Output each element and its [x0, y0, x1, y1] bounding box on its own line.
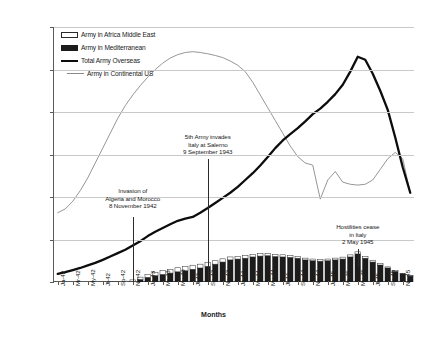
- x-axis-tick-label: Nv-43: [224, 270, 231, 286]
- annotation-algeria-morocco: Invasion ofAlgeria and Morocco8 November…: [81, 187, 185, 210]
- legend-item-4: Army in Continental US: [61, 67, 211, 80]
- x-axis-tick-label: Jl-44: [284, 273, 291, 286]
- x-axis-tick-label: Mr-42: [74, 270, 81, 286]
- bar-segment-africa-middle-east: [295, 256, 301, 258]
- bar-segment-africa-middle-east: [325, 259, 331, 261]
- y-tick-mark: [50, 197, 54, 198]
- x-axis-tick-label: Ja-43: [149, 271, 156, 286]
- annotation-hostilities-cease-line-3: 2 May 1945: [306, 238, 410, 246]
- legend-label: Army in Continental US: [87, 70, 153, 77]
- bar-segment-africa-middle-east: [272, 254, 278, 256]
- x-axis-tick-label: Sp-44: [299, 270, 306, 286]
- bar-segment-africa-middle-east: [235, 256, 241, 259]
- bar-segment-africa-middle-east: [257, 254, 263, 256]
- legend-item-2: Army in Mediterranean: [61, 41, 211, 54]
- bar-segment-africa-middle-east: [385, 267, 391, 268]
- legend-item-1: Army in Africa Middle East: [61, 28, 211, 41]
- bar-segment-africa-middle-east: [190, 265, 196, 269]
- bar-segment-africa-middle-east: [220, 259, 226, 262]
- x-axis-tick-label: Jl-42: [104, 273, 111, 286]
- annotation-hostilities-cease-line-1: Hostilities cease: [306, 223, 410, 231]
- bar-segment-africa-middle-east: [250, 254, 256, 257]
- x-axis-tick-label: Nv-45: [404, 270, 411, 286]
- legend-swatch-thin-line-icon: [67, 73, 84, 74]
- y-tick-mark: [50, 282, 54, 283]
- x-axis-tick-label: Ja-42: [59, 271, 66, 286]
- legend-label: Army in Mediterranean: [81, 44, 146, 51]
- bar-segment-africa-middle-east: [362, 256, 368, 258]
- annotation-algeria-morocco-line-3: 8 November 1942: [81, 202, 185, 210]
- bar-segment-africa-middle-east: [302, 258, 308, 260]
- bar-segment-africa-middle-east: [317, 259, 323, 261]
- x-axis-tick-label: Mr-45: [344, 270, 351, 286]
- y-tick-mark: [50, 155, 54, 156]
- bar-segment-africa-middle-east: [227, 257, 233, 260]
- x-axis-tick-label: Sp-43: [209, 270, 216, 286]
- x-axis-tick-label: My-42: [89, 269, 96, 286]
- annotation-algeria-morocco-line-2: Algeria and Morocco: [81, 195, 185, 203]
- bar-segment-africa-middle-east: [370, 260, 376, 262]
- chart-legend: Army in Africa Middle EastArmy in Medite…: [61, 28, 211, 80]
- annotation-salerno: 5th Army invadesItaly at Salerno9 Septem…: [156, 133, 260, 156]
- annotation-salerno-line-1: 5th Army invades: [156, 133, 260, 141]
- x-axis-tick-label: Sp-42: [119, 270, 126, 286]
- legend-label: Army in Africa Middle East: [81, 31, 155, 38]
- bar-segment-africa-middle-east: [242, 256, 248, 259]
- x-axis-tick-label: Mr-44: [254, 270, 261, 286]
- legend-swatch-open-rect-icon: [61, 32, 78, 38]
- y-tick-mark: [50, 70, 54, 71]
- legend-swatch-thick-line-icon: [61, 60, 78, 62]
- y-tick-mark: [50, 27, 54, 28]
- legend-label: Total Army Overseas: [81, 57, 140, 64]
- chart-container: 01,000,0002,000,0003,000,0004,000,0005,0…: [0, 0, 427, 339]
- annotation-hostilities-cease: Hostilities ceasein Italy2 May 1945: [306, 223, 410, 246]
- bar-segment-africa-middle-east: [340, 257, 346, 259]
- x-axis-tick-label: Ja-44: [239, 271, 246, 286]
- annotation-salerno-line-2: Italy at Salerno: [156, 141, 260, 149]
- x-axis-tick-label: Nv-42: [134, 270, 141, 286]
- y-tick-mark: [50, 240, 54, 241]
- x-axis-title: Months: [0, 311, 427, 318]
- y-tick-mark: [50, 112, 54, 113]
- x-axis-tick-label: Ja-45: [329, 271, 336, 286]
- bar-segment-africa-middle-east: [377, 264, 383, 265]
- bar-segment-africa-middle-east: [265, 253, 271, 255]
- x-axis-tick-label: Mr-43: [164, 270, 171, 286]
- bar-segment-africa-middle-east: [347, 255, 353, 257]
- annotation-hostilities-cease-stem: [358, 249, 359, 267]
- bar-segment-africa-middle-east: [212, 261, 218, 264]
- x-axis-tick-label: Nv-44: [314, 270, 321, 286]
- annotation-salerno-line-3: 9 September 1943: [156, 148, 260, 156]
- bar-segment-africa-middle-east: [332, 258, 338, 260]
- x-axis-tick-label: My-43: [179, 269, 186, 286]
- x-axis-tick-label: Jl-43: [194, 273, 201, 286]
- annotation-hostilities-cease-line-2: in Italy: [306, 231, 410, 239]
- x-axis-tick-label: Sp-45: [389, 270, 396, 286]
- x-axis-tick-label: Jl-45: [374, 273, 381, 286]
- bar-segment-africa-middle-east: [287, 255, 293, 257]
- bar-segment-africa-middle-east: [197, 264, 203, 268]
- legend-item-3: Total Army Overseas: [61, 54, 211, 67]
- annotation-salerno-stem: [208, 159, 209, 282]
- bar-segment-africa-middle-east: [280, 255, 286, 257]
- x-axis-tick-label: My-44: [269, 269, 276, 286]
- annotation-algeria-morocco-line-1: Invasion of: [81, 187, 185, 195]
- gridline: [54, 112, 414, 113]
- bar-segment-africa-middle-east: [310, 259, 316, 261]
- x-axis-tick-label: My-45: [359, 269, 366, 286]
- legend-swatch-filled-rect-icon: [61, 45, 78, 51]
